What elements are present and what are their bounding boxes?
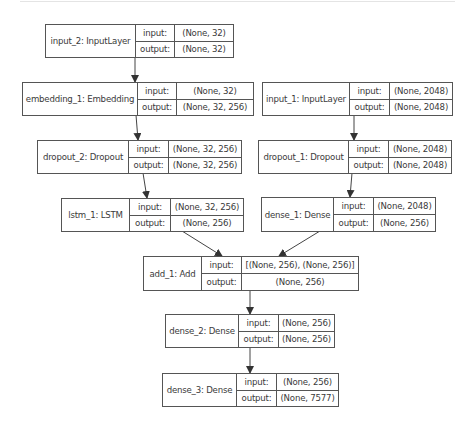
output-shape: (None, 256) xyxy=(374,214,435,231)
node-name: add_1: Add xyxy=(144,257,202,290)
output-label: output: xyxy=(129,157,168,174)
node-name: dropout_1: Dropout xyxy=(259,141,349,173)
input-label: input: xyxy=(130,199,170,215)
input-shape: (None, 32, 256) xyxy=(171,199,243,215)
input-label: input: xyxy=(349,141,388,157)
node-name: lstm_1: LSTM xyxy=(62,199,130,231)
output-label: output: xyxy=(350,99,389,116)
input-shape: (None, 32) xyxy=(177,83,253,99)
input-label: input: xyxy=(202,257,241,273)
output-label: output: xyxy=(237,390,276,407)
output-shape: (None, 32, 256) xyxy=(169,157,241,174)
node-lstm_1[interactable]: lstm_1: LSTM input: output: (None, 32, 2… xyxy=(61,198,244,232)
edge-dropout_1-dense_1 xyxy=(350,173,352,197)
input-label: input: xyxy=(138,83,176,99)
node-name: embedding_1: Embedding xyxy=(23,83,138,115)
output-shape: (None, 32) xyxy=(175,41,233,58)
node-dense_2[interactable]: dense_2: Dense input: output: (None, 256… xyxy=(165,314,335,348)
output-shape: (None, 32, 256) xyxy=(177,99,253,116)
input-shape: (None, 256) xyxy=(277,374,338,390)
output-label: output: xyxy=(202,273,241,290)
node-name: dense_3: Dense xyxy=(163,374,237,406)
node-add_1[interactable]: add_1: Add input: output: [(None, 256), … xyxy=(143,256,359,291)
output-shape: (None, 7577) xyxy=(277,390,338,407)
node-input_2[interactable]: input_2: InputLayer input: output: (None… xyxy=(45,24,234,58)
input-shape: (None, 32, 256) xyxy=(169,141,241,157)
input-shape: [(None, 256), (None, 256)] xyxy=(242,257,358,273)
node-dropout_1[interactable]: dropout_1: Dropout input: output: (None,… xyxy=(258,140,452,174)
input-label: input: xyxy=(136,25,174,41)
output-shape: (None, 256) xyxy=(171,215,243,232)
input-shape: (None, 2048) xyxy=(389,141,451,157)
input-label: input: xyxy=(129,141,168,157)
output-shape: (None, 256) xyxy=(242,273,358,290)
edge-dense_1-add_1 xyxy=(279,231,320,256)
node-dense_1[interactable]: dense_1: Dense input: output: (None, 204… xyxy=(261,197,436,232)
input-shape: (None, 2048) xyxy=(374,198,435,214)
output-label: output: xyxy=(334,214,373,231)
edge-lstm_1-add_1 xyxy=(182,231,222,256)
node-name: dense_2: Dense xyxy=(166,315,239,347)
input-label: input: xyxy=(334,198,373,214)
node-name: input_2: InputLayer xyxy=(46,25,136,57)
input-shape: (None, 2048) xyxy=(390,83,452,99)
node-name: dense_1: Dense xyxy=(262,198,334,231)
input-label: input: xyxy=(237,374,276,390)
node-name: dropout_2: Dropout xyxy=(38,141,129,173)
output-label: output: xyxy=(136,41,174,58)
output-shape: (None, 2048) xyxy=(390,99,452,116)
node-name: input_1: InputLayer xyxy=(263,83,350,115)
output-shape: (None, 2048) xyxy=(389,157,451,174)
input-shape: (None, 32) xyxy=(175,25,233,41)
output-label: output: xyxy=(349,157,388,174)
node-dense_3[interactable]: dense_3: Dense input: output: (None, 256… xyxy=(162,373,339,407)
edge-embedding_1-dropout_2 xyxy=(136,115,138,140)
output-shape: (None, 256) xyxy=(279,331,334,348)
node-dropout_2[interactable]: dropout_2: Dropout input: output: (None,… xyxy=(37,140,242,174)
output-label: output: xyxy=(239,331,278,348)
input-shape: (None, 256) xyxy=(279,315,334,331)
input-label: input: xyxy=(239,315,278,331)
edge-dropout_2-lstm_1 xyxy=(143,173,147,198)
output-label: output: xyxy=(130,215,170,232)
node-input_1[interactable]: input_1: InputLayer input: output: (None… xyxy=(262,82,453,116)
input-label: input: xyxy=(350,83,389,99)
output-label: output: xyxy=(138,99,176,116)
node-embedding_1[interactable]: embedding_1: Embedding input: output: (N… xyxy=(22,82,254,116)
